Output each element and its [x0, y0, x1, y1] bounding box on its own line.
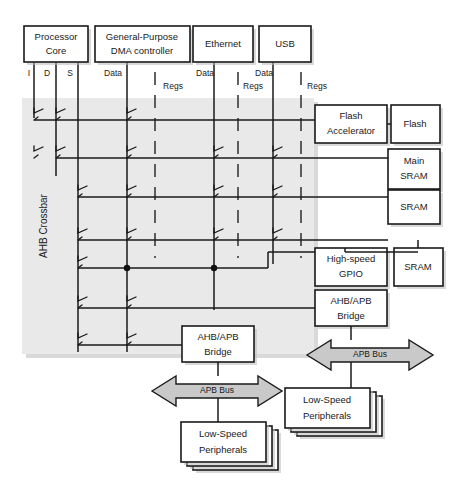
- ahb-apb-bridge-left-label-1: AHB/APB: [197, 331, 238, 342]
- high-speed-gpio-label-1: High-speed: [327, 253, 376, 264]
- flash-accelerator-label-2: Accelerator: [327, 125, 375, 136]
- high-speed-gpio-label-2: GPIO: [339, 268, 363, 279]
- port-label-usb-data: Data: [255, 68, 273, 78]
- port-label-dma-data: Data: [104, 68, 122, 78]
- ethernet-label: Ethernet: [205, 38, 241, 49]
- flash-accelerator-label-1: Flash: [339, 110, 362, 121]
- main-sram-label-2: SRAM: [400, 170, 428, 181]
- sram-label: SRAM: [400, 201, 428, 212]
- processor-core-label-1: Processor: [35, 31, 78, 42]
- soc-bus-architecture-diagram: AHB Crossbar: [0, 0, 456, 495]
- gpdma-label-2: DMA controller: [111, 45, 173, 56]
- port-label-eth-regs: Regs: [243, 81, 263, 91]
- gpio-sram-label: SRAM: [404, 261, 432, 272]
- low-speed-peripherals-right-label-2: Peripherals: [303, 410, 351, 421]
- low-speed-peripherals-left-label-1: Low-Speed: [199, 428, 247, 439]
- crossbar-region: [22, 98, 314, 354]
- port-label-core-s: S: [67, 68, 73, 78]
- low-speed-peripherals-right-label-1: Low-Speed: [303, 394, 351, 405]
- port-label-core-i: I: [28, 68, 30, 78]
- junction-dot-dma-gpio: [124, 265, 130, 271]
- junction-dot-eth-gpio: [211, 265, 217, 271]
- ahb-apb-bridge-right-label-2: Bridge: [337, 310, 364, 321]
- low-speed-peripherals-left[interactable]: Low-Speed Peripherals: [181, 422, 281, 473]
- port-label-usb-regs: Regs: [307, 81, 327, 91]
- usb-label: USB: [275, 38, 295, 49]
- port-label-dma-regs: Regs: [163, 81, 183, 91]
- gpdma-label-1: General-Purpose: [106, 31, 178, 42]
- apb-bus-right-label: APB Bus: [353, 349, 387, 359]
- apb-bus-right[interactable]: APB Bus: [307, 340, 433, 370]
- ahb-apb-bridge-right-label-1: AHB/APB: [330, 295, 371, 306]
- low-speed-peripherals-left-label-2: Peripherals: [199, 444, 247, 455]
- main-sram-label-1: Main: [404, 155, 425, 166]
- apb-bus-left-label: APB Bus: [200, 385, 234, 395]
- port-label-eth-data: Data: [196, 68, 214, 78]
- low-speed-peripherals-right[interactable]: Low-Speed Peripherals: [285, 388, 385, 439]
- port-label-core-d: D: [44, 68, 50, 78]
- flash-label: Flash: [403, 118, 426, 129]
- apb-bus-left[interactable]: APB Bus: [152, 376, 282, 406]
- crossbar-label: AHB Crossbar: [38, 193, 49, 258]
- processor-core-label-2: Core: [46, 45, 67, 56]
- ahb-apb-bridge-left-label-2: Bridge: [204, 346, 231, 357]
